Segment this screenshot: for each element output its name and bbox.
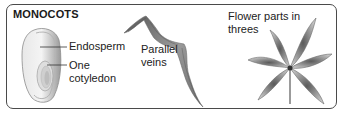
seed-illustration — [22, 28, 67, 102]
cotyledon-label: One cotyledon — [69, 59, 119, 85]
endosperm-label: Endosperm — [69, 40, 125, 53]
parallel-veins-label: Parallel veins — [141, 43, 191, 69]
flower-parts-label: Flower parts in threes — [228, 10, 308, 36]
